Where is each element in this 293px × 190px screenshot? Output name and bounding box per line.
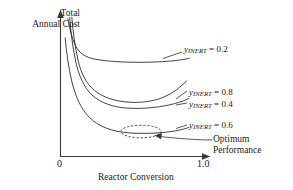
series-subscript-inert-02: INERT bbox=[188, 47, 207, 54]
x-axis-title: Reactor Conversion bbox=[98, 172, 174, 183]
annotation-optimum-line-2: Performance bbox=[213, 145, 262, 155]
y-axis-title-line-2: Annual Cost bbox=[32, 19, 80, 29]
optimum-region-ellipse bbox=[121, 125, 161, 138]
series-subscript-inert-06: INERT bbox=[193, 123, 212, 130]
leader-line-inert-02 bbox=[163, 52, 182, 59]
series-label-inert-02: yINERT = 0.2 bbox=[184, 44, 228, 54]
leader-line-inert-06 bbox=[176, 125, 187, 129]
curve-inert-06 bbox=[65, 38, 189, 133]
series-label-inert-04: yINERT = 0.4 bbox=[189, 99, 233, 109]
y-axis-title: TotalAnnual Cost bbox=[32, 8, 80, 29]
curve-inert-04 bbox=[70, 18, 189, 109]
annotation-optimum-line-1: Optimum bbox=[213, 134, 249, 144]
x-tick-label-0: 0 bbox=[57, 158, 62, 169]
series-subscript-inert-08: INERT bbox=[193, 90, 212, 97]
x-tick-label-1: 1.0 bbox=[197, 158, 210, 169]
series-value-inert-02: = 0.2 bbox=[209, 44, 228, 54]
leader-line-optimum bbox=[160, 137, 212, 141]
series-value-inert-04: = 0.4 bbox=[214, 99, 233, 109]
series-value-inert-08: = 0.8 bbox=[214, 87, 233, 97]
leader-line-inert-08 bbox=[176, 91, 187, 99]
series-value-inert-06: = 0.6 bbox=[214, 120, 233, 130]
series-label-inert-08: yINERT = 0.8 bbox=[189, 87, 233, 97]
leader-line-inert-04 bbox=[176, 103, 187, 105]
y-axis-title-line-1: Total bbox=[61, 8, 80, 18]
series-label-inert-06: yINERT = 0.6 bbox=[189, 120, 233, 130]
chart-figure: TotalAnnual Cost Reactor Conversion 0 1.… bbox=[0, 0, 293, 190]
optimum-arrow-icon bbox=[155, 133, 163, 139]
annotation-optimum-performance: OptimumPerformance bbox=[213, 134, 262, 157]
series-subscript-inert-04: INERT bbox=[193, 102, 212, 109]
curve-inert-08 bbox=[72, 17, 187, 102]
